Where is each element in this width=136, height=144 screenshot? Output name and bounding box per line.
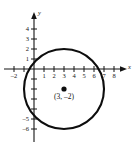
graph-figure: –2 1 2 3 4 5 6 7 8 4 3 2 1 –5 –6 y x (3,… — [0, 0, 136, 144]
y-tick-label-2: 2 — [21, 46, 29, 53]
y-tick-label-3: 3 — [21, 36, 29, 43]
center-point-marker — [61, 86, 66, 91]
x-tick-label-6: 6 — [92, 73, 95, 80]
x-tick-label-4: 4 — [72, 73, 75, 80]
coordinate-plane-svg — [0, 0, 136, 144]
y-tick-label--6: –6 — [18, 126, 29, 133]
y-tick-label--5: –5 — [18, 116, 29, 123]
y-axis-arrowhead — [31, 12, 37, 19]
x-tick-label-3: 3 — [62, 73, 65, 80]
x-tick-label-5: 5 — [82, 73, 85, 80]
x-tick-label-7: 7 — [102, 73, 105, 80]
y-axis-name: y — [38, 10, 41, 17]
x-tick-label-8: 8 — [112, 73, 115, 80]
y-tick-label-1: 1 — [21, 56, 29, 63]
x-tick-label-1: 1 — [42, 73, 45, 80]
x-axis-name: x — [128, 64, 131, 71]
x-tick-label--2: –2 — [11, 73, 18, 80]
x-tick-label-2: 2 — [52, 73, 55, 80]
y-tick-label-4: 4 — [21, 26, 29, 33]
center-point-label: (3, –2) — [54, 93, 74, 101]
x-axis-arrowhead — [120, 66, 127, 72]
